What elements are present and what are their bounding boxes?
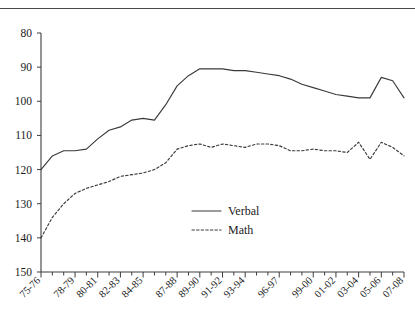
y-tick-label: 80 (21, 27, 33, 39)
series-line-math (41, 142, 404, 238)
x-tick-label: 82-83 (97, 275, 122, 300)
y-tick-label: 120 (15, 164, 33, 176)
y-tick-label: 110 (15, 129, 32, 141)
y-tick-label: 140 (15, 232, 33, 244)
y-axis: 8090100110120130140150 (15, 27, 41, 278)
x-tick-label: 01-02 (312, 275, 337, 300)
x-tick-label: 91-92 (199, 275, 224, 300)
x-tick-label: 03-04 (335, 274, 361, 300)
y-tick-label: 90 (21, 61, 33, 73)
y-tick-label: 130 (15, 198, 33, 210)
x-tick-label: 05-06 (358, 275, 383, 300)
x-tick-label: 96-97 (256, 275, 281, 300)
x-tick-label: 93-94 (221, 274, 247, 300)
series-line-verbal (41, 69, 404, 170)
chart-legend: Verbal Math (192, 204, 260, 237)
plot-area (41, 69, 404, 238)
sat-scores-line-chart: 8090100110120130140150 75-7678-7980-8182… (0, 0, 415, 313)
y-tick-label: 150 (15, 266, 33, 278)
legend-label-math: Math (228, 223, 253, 237)
x-tick-label: 78-79 (51, 275, 76, 300)
x-tick-label: 84-85 (119, 275, 144, 300)
x-tick-label: 89-90 (176, 275, 201, 300)
chart-figure: 8090100110120130140150 75-7678-7980-8182… (0, 0, 415, 313)
x-tick-label: 07-08 (380, 275, 405, 300)
x-tick-label: 80-81 (74, 275, 99, 300)
x-tick-label: 75-76 (17, 275, 42, 300)
x-tick-label: 99-00 (290, 275, 315, 300)
y-tick-label: 100 (15, 95, 33, 107)
x-axis: 75-7678-7980-8182-8384-8587-8889-9091-92… (17, 272, 405, 300)
legend-label-verbal: Verbal (228, 204, 260, 218)
x-tick-label: 87-88 (153, 275, 178, 300)
